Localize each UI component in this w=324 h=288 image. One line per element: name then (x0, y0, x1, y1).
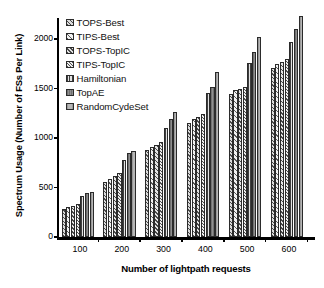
bar (285, 59, 289, 237)
bar-group (187, 18, 220, 237)
bar (71, 206, 75, 237)
legend-swatch-icon (66, 75, 74, 83)
bar (150, 147, 154, 237)
y-tick (54, 88, 58, 89)
bar (159, 142, 163, 237)
bar (243, 87, 247, 237)
bar (233, 90, 237, 237)
y-tick (54, 137, 58, 138)
legend-label: TIPS-Best (77, 31, 120, 42)
bar (80, 196, 84, 237)
bar (127, 153, 131, 237)
legend-swatch-icon (66, 47, 74, 55)
bar (280, 62, 284, 237)
bar (252, 52, 256, 237)
legend-item: TOPS-TopIC (66, 44, 148, 57)
legend-item: TIPS-TopIC (66, 58, 148, 71)
legend-item: TIPS-Best (66, 30, 148, 43)
bar (187, 123, 191, 237)
x-tick-label: 300 (142, 244, 186, 254)
bar (113, 176, 117, 237)
y-tick-label: 2000 (13, 33, 53, 43)
legend-swatch-icon (66, 33, 74, 41)
y-tick-label: 0 (13, 231, 53, 241)
bar-group (229, 18, 262, 237)
x-tick (265, 237, 267, 242)
legend-label: TopAE (77, 87, 105, 98)
y-tick (54, 187, 58, 188)
legend-label: Hamiltonian (77, 73, 127, 84)
y-tick (54, 236, 58, 237)
bar (145, 150, 149, 237)
legend-swatch-icon (66, 61, 74, 69)
legend-item: Hamiltonian (66, 72, 148, 85)
bar (131, 151, 135, 237)
legend-label: TIPS-TopIC (77, 59, 126, 70)
legend-label: TOPS-TopIC (77, 45, 130, 56)
bar (62, 209, 66, 237)
x-tick (98, 237, 100, 242)
bar (275, 64, 279, 237)
legend-label: RandomCydeSet (77, 101, 149, 112)
x-tick (181, 237, 183, 242)
y-tick-label: 1500 (13, 83, 53, 93)
x-tick-label: 400 (183, 244, 227, 254)
bar (108, 179, 112, 237)
x-tick-label: 500 (225, 244, 269, 254)
x-tick (139, 237, 141, 242)
bar (289, 42, 293, 237)
bar (196, 117, 200, 237)
bar (66, 207, 70, 237)
bar (257, 37, 261, 237)
legend-item: TOPS-Best (66, 16, 148, 29)
x-tick (223, 237, 225, 242)
bar-group (145, 18, 178, 237)
y-tick (54, 38, 58, 39)
y-axis-title: Spectrum Usage (Number of FSs Per Link) (13, 16, 24, 236)
legend-swatch-icon (66, 103, 74, 111)
bar (247, 63, 251, 237)
bar (76, 204, 80, 237)
bar (117, 173, 121, 237)
bar (154, 145, 158, 237)
x-tick (307, 237, 309, 242)
bar (192, 119, 196, 237)
legend-swatch-icon (66, 89, 74, 97)
bar (169, 119, 173, 237)
y-tick-label: 1000 (13, 132, 53, 142)
x-tick-label: 100 (58, 244, 102, 254)
bar (238, 89, 242, 238)
bar (215, 72, 219, 237)
bar-group (271, 18, 304, 237)
bar-chart-figure: Spectrum Usage (Number of FSs Per Link) … (0, 0, 324, 288)
bar (299, 16, 303, 237)
legend-label: TOPS-Best (77, 17, 124, 28)
y-tick-label: 500 (13, 182, 53, 192)
bar (229, 94, 233, 237)
bar (164, 128, 168, 237)
bar (173, 112, 177, 237)
bar (122, 160, 126, 237)
bar (206, 93, 210, 237)
bar (271, 68, 275, 237)
bar (294, 29, 298, 237)
legend-item: RandomCydeSet (66, 100, 148, 113)
x-tick-label: 200 (100, 244, 144, 254)
x-axis-line (57, 237, 315, 240)
bar (201, 114, 205, 237)
bar (85, 193, 89, 237)
bar (210, 87, 214, 237)
bar (90, 192, 94, 237)
chart-legend: TOPS-BestTIPS-BestTOPS-TopICTIPS-TopICHa… (66, 16, 148, 113)
legend-item: TopAE (66, 86, 148, 99)
bar (103, 182, 107, 237)
y-axis-line (57, 18, 59, 239)
legend-swatch-icon (66, 19, 74, 27)
x-axis-title: Number of lightpath requests (57, 263, 315, 274)
x-tick-label: 600 (267, 244, 311, 254)
